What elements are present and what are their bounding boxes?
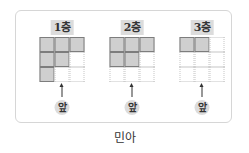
filled-cell	[40, 37, 55, 52]
filled-cell	[125, 52, 140, 67]
empty-cell	[140, 52, 155, 67]
floor-grid	[110, 37, 155, 82]
front-label: 앞	[125, 100, 140, 115]
filled-cell	[40, 67, 55, 82]
empty-cell	[70, 52, 85, 67]
filled-cell	[140, 37, 155, 52]
filled-cell	[180, 37, 195, 52]
empty-cell	[210, 52, 225, 67]
empty-cell	[210, 37, 225, 52]
front-label: 앞	[195, 100, 210, 115]
empty-cell	[55, 67, 70, 82]
front-label: 앞	[55, 100, 70, 115]
empty-cell	[110, 67, 125, 82]
floor-3: 3층 앞	[172, 11, 232, 124]
filled-cell	[55, 37, 70, 52]
empty-cell	[140, 67, 155, 82]
floor-1: 1층 앞	[32, 11, 92, 124]
floor-grid	[40, 37, 85, 82]
empty-cell	[180, 67, 195, 82]
empty-cell	[210, 67, 225, 82]
filled-cell	[70, 37, 85, 52]
floor-grid	[180, 37, 225, 82]
floor-2: 2층 앞	[102, 11, 162, 124]
empty-cell	[195, 67, 210, 82]
arrow-up-icon	[202, 86, 203, 97]
arrow-up-icon	[132, 86, 133, 97]
floor-label: 3층	[191, 20, 214, 35]
filled-cell	[40, 52, 55, 67]
filled-cell	[195, 37, 210, 52]
arrow-up-icon	[62, 86, 63, 97]
empty-cell	[195, 52, 210, 67]
filled-cell	[55, 52, 70, 67]
floor-label: 2층	[121, 20, 144, 35]
filled-cell	[110, 37, 125, 52]
figure-frame: 1층 앞 2층 앞 3층 앞	[15, 10, 232, 123]
floor-label: 1층	[51, 20, 74, 35]
filled-cell	[125, 37, 140, 52]
empty-cell	[125, 67, 140, 82]
caption: 민아	[0, 128, 249, 145]
filled-cell	[110, 52, 125, 67]
empty-cell	[70, 67, 85, 82]
empty-cell	[180, 52, 195, 67]
